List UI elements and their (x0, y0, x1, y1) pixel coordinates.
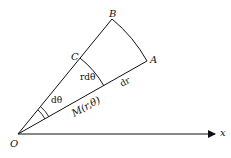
polar-element-diagram: O x A B C dθ rdθ dr M(r,θ) (0, 0, 231, 158)
label-radial-increment: dr (118, 75, 132, 89)
diagram-canvas: O x A B C dθ rdθ dr M(r,θ) (0, 0, 231, 158)
angle-arc-outer (41, 107, 49, 117)
label-point-C: C (71, 51, 79, 62)
label-angle: dθ (51, 95, 62, 105)
label-arc-length: rdθ (80, 72, 95, 82)
label-point-B: B (108, 8, 116, 19)
label-point-A: A (149, 54, 157, 65)
label-point-M: M(r,θ) (69, 94, 102, 119)
label-axis-x: x (220, 127, 226, 138)
arc-BA (112, 19, 147, 61)
label-origin: O (10, 138, 18, 149)
angle-arc-inner (38, 110, 45, 119)
